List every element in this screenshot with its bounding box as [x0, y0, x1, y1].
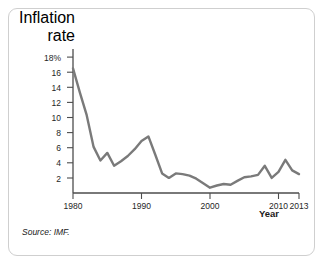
y-tick-label-8: 8: [29, 128, 61, 138]
source-note: Source: IMF.: [22, 227, 70, 237]
y-tick-label-2: 2: [29, 174, 61, 184]
y-tick-label-4: 4: [29, 158, 61, 168]
y-tick-label-10: 10: [29, 113, 61, 123]
x-tick-label-2000: 2000: [190, 201, 230, 211]
y-tick-label-14: 14: [29, 83, 61, 93]
x-axis-ticks: [73, 193, 299, 199]
line-chart-plot: 18% 16 14 12 10 8 6 4 2 1980 1990 2000 2…: [9, 9, 316, 257]
y-tick-label-16: 16: [29, 68, 61, 78]
x-tick-label-1990: 1990: [122, 201, 162, 211]
y-axis-ticks: [67, 57, 73, 178]
inflation-rate-line: [73, 68, 299, 187]
y-tick-label-18: 18%: [29, 53, 61, 63]
y-tick-label-12: 12: [29, 98, 61, 108]
x-tick-label-1980: 1980: [53, 201, 93, 211]
x-axis-title: Year: [239, 208, 299, 219]
y-tick-label-6: 6: [29, 143, 61, 153]
figure-frame: Inflation rate: [8, 8, 315, 256]
